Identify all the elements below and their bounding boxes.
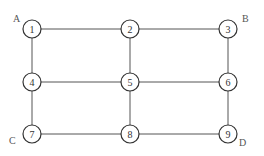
node-4: 4 xyxy=(23,73,41,91)
node-9: 9 xyxy=(219,125,237,143)
corner-label-c: C xyxy=(9,135,16,146)
node-5: 5 xyxy=(121,73,139,91)
grid-graph-diagram: 123456789 ABCD xyxy=(0,0,264,156)
node-label: 3 xyxy=(226,24,231,35)
node-label: 4 xyxy=(30,77,35,88)
node-2: 2 xyxy=(121,20,139,38)
node-8: 8 xyxy=(121,125,139,143)
node-label: 5 xyxy=(128,77,133,88)
node-label: 1 xyxy=(30,24,35,35)
corner-label-b: B xyxy=(242,13,249,24)
node-label: 6 xyxy=(226,77,231,88)
node-label: 2 xyxy=(128,24,133,35)
node-label: 7 xyxy=(30,129,35,140)
corner-label-a: A xyxy=(13,13,21,24)
node-label: 9 xyxy=(226,129,231,140)
node-3: 3 xyxy=(219,20,237,38)
node-6: 6 xyxy=(219,73,237,91)
node-7: 7 xyxy=(23,125,41,143)
node-label: 8 xyxy=(128,129,133,140)
corner-label-d: D xyxy=(239,137,246,148)
node-1: 1 xyxy=(23,20,41,38)
